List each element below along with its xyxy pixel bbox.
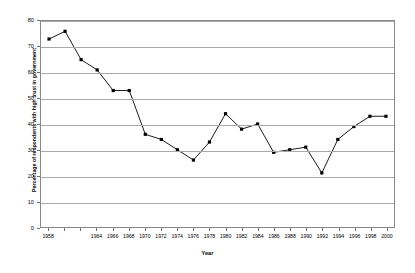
- x-axis-title: Year: [0, 250, 415, 256]
- y-axis-tick-label: 30: [8, 147, 34, 153]
- y-axis-tick-mark: [37, 98, 40, 99]
- gridline: [41, 47, 394, 48]
- x-axis-tick-mark: [113, 228, 114, 231]
- x-axis-tick-mark: [322, 228, 323, 231]
- gridline: [41, 125, 394, 126]
- data-point-marker: [240, 128, 243, 131]
- y-axis-tick-label: 70: [8, 43, 34, 49]
- x-axis-tick-mark: [64, 228, 65, 231]
- data-point-marker: [320, 171, 323, 174]
- y-axis-tick-mark: [37, 176, 40, 177]
- data-point-marker: [112, 89, 115, 92]
- y-axis-tick-mark: [37, 124, 40, 125]
- y-axis-tick-label: 10: [8, 199, 34, 205]
- plot-area: [40, 20, 395, 228]
- x-axis-tick-mark: [274, 228, 275, 231]
- gridline: [41, 203, 394, 204]
- x-axis-tick-label: 2000: [374, 233, 400, 239]
- x-axis-tick-label: 1958: [35, 233, 61, 239]
- x-axis-tick-mark: [48, 228, 49, 231]
- data-point-marker: [368, 115, 371, 118]
- x-axis-tick-mark: [193, 228, 194, 231]
- y-axis-tick-label: 0: [8, 225, 34, 231]
- y-axis-tick-mark: [37, 72, 40, 73]
- data-point-marker: [80, 58, 83, 61]
- gridline: [41, 21, 394, 22]
- y-axis-tick-label: 20: [8, 173, 34, 179]
- x-axis-tick-mark: [339, 228, 340, 231]
- y-axis-tick-mark: [37, 228, 40, 229]
- x-axis-tick-mark: [96, 228, 97, 231]
- x-axis-tick-mark: [226, 228, 227, 231]
- y-axis-tick-label: 50: [8, 95, 34, 101]
- x-axis-tick-mark: [290, 228, 291, 231]
- data-series-line: [41, 21, 394, 227]
- y-axis-tick-mark: [37, 150, 40, 151]
- x-axis-tick-mark: [177, 228, 178, 231]
- x-axis-tick-mark: [371, 228, 372, 231]
- gridline: [41, 73, 394, 74]
- x-axis-tick-mark: [129, 228, 130, 231]
- x-axis-tick-mark: [209, 228, 210, 231]
- y-axis-tick-label: 40: [8, 121, 34, 127]
- x-axis-tick-mark: [161, 228, 162, 231]
- data-point-marker: [224, 112, 227, 115]
- data-point-marker: [192, 158, 195, 161]
- gridline: [41, 177, 394, 178]
- gridline: [41, 151, 394, 152]
- x-axis-tick-mark: [80, 228, 81, 231]
- x-axis-tick-mark: [355, 228, 356, 231]
- x-axis-tick-mark: [145, 228, 146, 231]
- x-axis-tick-mark: [306, 228, 307, 231]
- trust-in-government-line-chart: Percentage of respondents with high trus…: [0, 0, 415, 273]
- data-point-marker: [384, 115, 387, 118]
- data-point-marker: [96, 68, 99, 71]
- x-axis-tick-mark: [258, 228, 259, 231]
- x-axis-tick-mark: [242, 228, 243, 231]
- data-point-marker: [336, 138, 339, 141]
- data-point-marker: [304, 146, 307, 149]
- gridline: [41, 99, 394, 100]
- x-axis-tick-mark: [387, 228, 388, 231]
- data-point-marker: [208, 140, 211, 143]
- data-point-marker: [160, 138, 163, 141]
- y-axis-tick-mark: [37, 46, 40, 47]
- data-point-marker: [128, 89, 131, 92]
- y-axis-tick-label: 80: [8, 17, 34, 23]
- y-axis-title: Percentage of respondents with high trus…: [31, 20, 37, 220]
- data-point-marker: [144, 133, 147, 136]
- y-axis-tick-mark: [37, 20, 40, 21]
- y-axis-tick-mark: [37, 202, 40, 203]
- data-point-marker: [63, 30, 66, 33]
- data-point-marker: [47, 37, 50, 40]
- y-axis-tick-label: 60: [8, 69, 34, 75]
